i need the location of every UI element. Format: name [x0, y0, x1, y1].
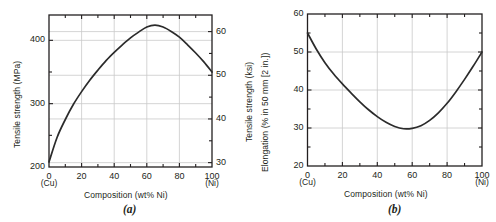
secondary-y-axis-tick-label: 50: [216, 69, 236, 79]
panel-letter-a: (a): [123, 203, 136, 215]
secondary-y-axis-tick-label: 60: [216, 26, 236, 36]
figure-root: Tensile strength (MPa) Composition (wt% …: [0, 0, 496, 222]
secondary-y-axis-tick-label: 30: [216, 157, 236, 167]
chart-panel-a: Tensile strength (MPa) Composition (wt% …: [0, 0, 248, 222]
x-axis-title-b: Composition (wt% Ni): [344, 189, 428, 199]
x-axis-tick-label: 20: [68, 171, 96, 181]
y-axis-tick-label: 200: [23, 161, 45, 171]
y-axis-tick-label: 300: [23, 98, 45, 108]
secondary-y-axis-tick-label: 40: [216, 113, 236, 123]
y-axis-tick-label: 30: [282, 122, 304, 132]
y-axis-tick-label: 50: [282, 46, 304, 56]
x-axis-tick-label: 60: [133, 171, 161, 181]
y-axis-tick-label: 60: [282, 8, 304, 18]
x-axis-tick-label: 0: [35, 171, 63, 181]
x-axis-tick-label: 40: [363, 170, 391, 180]
x-axis-tick-label: 40: [100, 171, 128, 181]
x-axis-tick-label: 100: [198, 171, 226, 181]
plot-area-a: [0, 0, 248, 222]
y-axis-title-a: Tensile strength (MPa): [12, 61, 22, 148]
x-axis-tick-label: 60: [398, 170, 426, 180]
x-axis-tick-label: 100: [468, 170, 496, 180]
panel-letter-b: (b): [388, 203, 401, 215]
y-axis-tick-label: 40: [282, 84, 304, 94]
data-curve: [308, 33, 483, 129]
x-axis-title-a: Composition (wt% Ni): [84, 190, 168, 200]
x-axis-tick-label: 80: [433, 170, 461, 180]
y-axis-tick-label: 400: [23, 34, 45, 44]
x-axis-tick-label: 20: [328, 170, 356, 180]
data-curve: [49, 25, 212, 162]
y-axis-tick-label: 20: [282, 160, 304, 170]
chart-panel-b: Elongation (% in 50 mm [2 in.]) Composit…: [248, 0, 496, 222]
x-axis-tick-label: 80: [165, 171, 193, 181]
x-axis-tick-label: 0: [294, 170, 322, 180]
y-axis-title-b: Elongation (% in 50 mm [2 in.]): [260, 53, 270, 172]
